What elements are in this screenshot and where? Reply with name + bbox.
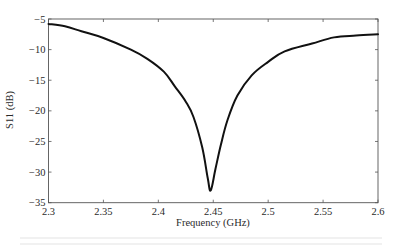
x-tick-label: 2.55	[314, 206, 332, 217]
s11-chart: 2.32.352.42.452.52.552.6 −5−10−15−20−25−…	[0, 0, 396, 248]
x-tick-label: 2.35	[94, 206, 112, 217]
y-tick-label: −25	[29, 136, 45, 147]
y-tick-label: −5	[34, 14, 45, 25]
y-axis-label: S11 (dB)	[4, 91, 16, 129]
x-tick-label: 2.6	[371, 206, 384, 217]
x-axis-label: Frequency (GHz)	[176, 217, 250, 229]
x-tick-label: 2.4	[152, 206, 166, 217]
x-tick-label: 2.45	[204, 206, 222, 217]
y-axis-ticks: −5−10−15−20−25−30−35	[29, 14, 378, 209]
data-series	[49, 24, 379, 191]
s11-curve	[49, 24, 379, 191]
y-tick-label: −10	[29, 44, 45, 55]
y-tick-label: −20	[29, 105, 45, 116]
y-tick-label: −35	[29, 197, 45, 208]
x-axis-ticks: 2.32.352.42.452.52.552.6	[42, 19, 385, 217]
y-tick-label: −15	[29, 75, 45, 86]
x-tick-label: 2.5	[262, 206, 275, 217]
y-tick-label: −30	[29, 167, 45, 178]
caption-bleed-line	[20, 243, 382, 245]
caption-bleed-line	[20, 237, 382, 239]
